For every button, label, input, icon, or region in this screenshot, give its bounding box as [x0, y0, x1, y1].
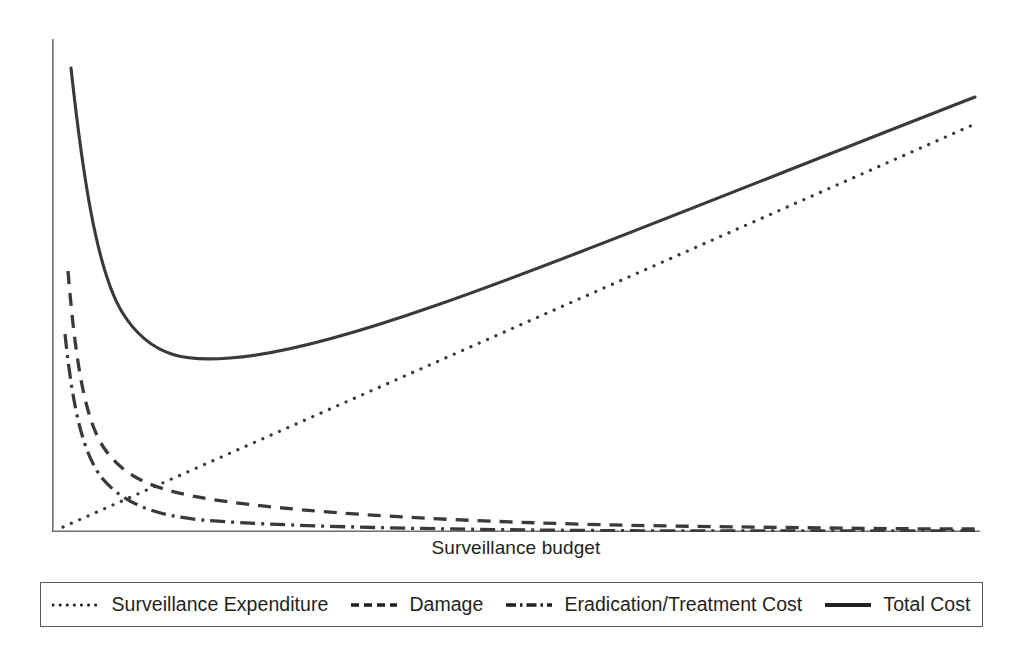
chart-legend: Surveillance Expenditure Damage Eradicat… [40, 582, 983, 627]
legend-line-solid-icon [824, 598, 872, 612]
legend-item-damage: Damage [350, 593, 483, 616]
legend-label-damage: Damage [409, 593, 483, 616]
legend-line-dashdot-icon [505, 598, 553, 612]
plot-area [52, 39, 980, 532]
chart-figure: Monetary Value Surveillance budget Surve… [0, 0, 1021, 654]
series-surveillance-expenditure [63, 124, 975, 527]
chart-canvas [52, 39, 980, 532]
x-axis-label: Surveillance budget [52, 537, 980, 559]
legend-label-eradication-treatment-cost: Eradication/Treatment Cost [564, 593, 802, 616]
legend-label-total-cost: Total Cost [883, 593, 970, 616]
series-damage [68, 271, 975, 529]
series-total-cost [71, 68, 975, 359]
series-eradication-treatment-cost [65, 334, 975, 531]
legend-item-surveillance-expenditure: Surveillance Expenditure [52, 593, 328, 616]
legend-line-dashed-icon [350, 598, 398, 612]
legend-item-eradication-treatment-cost: Eradication/Treatment Cost [505, 593, 802, 616]
legend-label-surveillance-expenditure: Surveillance Expenditure [111, 593, 328, 616]
legend-item-total-cost: Total Cost [824, 593, 970, 616]
legend-line-dotted-icon [52, 598, 100, 612]
